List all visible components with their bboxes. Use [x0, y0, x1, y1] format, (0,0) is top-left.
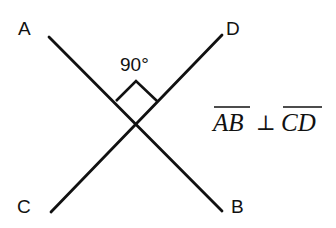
point-label-a: A: [18, 18, 31, 39]
point-label-b: B: [231, 196, 244, 217]
point-label-d: D: [226, 18, 240, 39]
angle-label: 90°: [120, 54, 149, 75]
diagram-canvas: A D C B 90° AB ⊥ CD: [0, 0, 336, 228]
perpendicular-symbol: ⊥: [256, 111, 276, 135]
perpendicular-lines-diagram: A D C B 90° AB ⊥ CD: [0, 0, 336, 228]
notation-segment-ab: AB: [211, 109, 244, 136]
notation-segment-cd: CD: [281, 109, 316, 136]
point-label-c: C: [17, 196, 31, 217]
right-angle-marker: [116, 81, 157, 101]
